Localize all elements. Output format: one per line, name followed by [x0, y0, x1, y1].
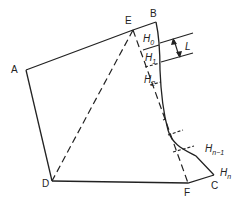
label-f: F [184, 187, 190, 198]
label-e: E [125, 15, 132, 26]
edge-d-c [52, 175, 214, 183]
diagram-canvas: A B E D F C H0 H1 H2 Hn−1 Hn L [0, 0, 245, 206]
edge-a-d [26, 70, 52, 181]
extension-line-bottom [161, 53, 193, 62]
section-line-4 [168, 130, 183, 135]
label-hn: Hn [220, 167, 231, 180]
label-hn-1: Hn−1 [205, 143, 224, 156]
label-c: C [211, 180, 218, 191]
edge-a-b [26, 22, 156, 70]
label-h1: H1 [145, 52, 156, 65]
label-a: A [11, 64, 18, 75]
diagram-svg: A B E D F C H0 H1 H2 Hn−1 Hn L [0, 0, 245, 206]
label-h0: H0 [143, 33, 154, 46]
label-l: L [185, 41, 191, 52]
label-h2: H2 [144, 74, 155, 87]
label-d: D [42, 178, 49, 189]
dashed-e-d [52, 30, 133, 181]
label-b: B [150, 8, 157, 19]
